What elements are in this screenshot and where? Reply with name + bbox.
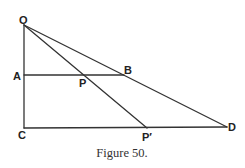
label-P: P [79,77,86,89]
label-B: B [124,64,132,76]
label-C: C [18,129,26,141]
figure-caption: Figure 50. [96,146,147,160]
label-O: O [19,14,28,26]
label-A: A [13,70,21,82]
label-D: D [228,121,236,133]
geometry-figure: O A C B P P′ D Figure 50. [0,0,245,168]
label-P-prime: P′ [142,131,152,143]
segment-CD [24,127,227,128]
segment-OD [24,25,227,127]
